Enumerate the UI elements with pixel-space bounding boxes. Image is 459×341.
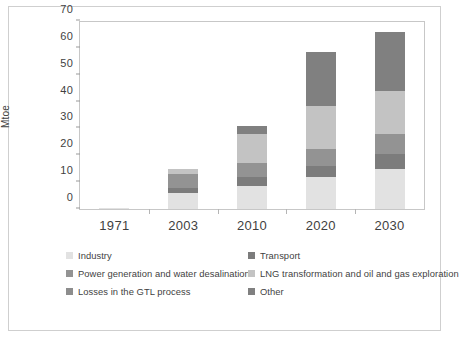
- bar-1971: [99, 208, 129, 209]
- bar-segment: [99, 208, 129, 209]
- bar-2003: [168, 169, 198, 209]
- y-axis-tick-label: 70: [34, 3, 80, 15]
- y-axis-tick-label: 30: [34, 110, 80, 122]
- legend-row: Losses in the GTL processOther: [66, 282, 438, 300]
- legend-item: Transport: [248, 246, 438, 264]
- legend-swatch-other: [248, 288, 255, 295]
- y-axis-tick-label: 10: [34, 164, 80, 176]
- bar-segment: [306, 166, 336, 177]
- x-axis-tick-mark: [149, 209, 150, 214]
- x-axis-tick-label: 2030: [355, 218, 425, 233]
- bar-2020: [306, 52, 336, 209]
- bar-segment: [237, 134, 267, 164]
- bar-segment: [168, 169, 198, 174]
- x-axis-tick-label: 2010: [217, 218, 287, 233]
- legend-swatch-power-generation: [66, 270, 73, 277]
- x-axis-tick-mark: [286, 209, 287, 214]
- y-axis-tick-mark: [76, 73, 80, 74]
- bar-segment: [168, 188, 198, 193]
- bar-segment: [168, 193, 198, 209]
- x-axis-tick-mark: [355, 209, 356, 214]
- y-axis-tick-label: 50: [34, 57, 80, 69]
- bar-segment: [375, 154, 405, 169]
- legend-label: Transport: [260, 250, 300, 261]
- legend-swatch-transport: [248, 252, 255, 259]
- legend-swatch-lng-transformation: [248, 270, 255, 277]
- bar-segment: [375, 91, 405, 134]
- legend-swatch-industry: [66, 252, 73, 259]
- legend-label: Other: [260, 286, 284, 297]
- bar-segment: [168, 174, 198, 188]
- y-axis-tick-mark: [76, 100, 80, 101]
- plot-area: 010203040506070 19712003201020202030: [79, 21, 425, 210]
- y-axis-tick-label: 40: [34, 84, 80, 96]
- legend-item: Power generation and water desalination: [66, 264, 248, 282]
- y-axis-tick-label: 20: [34, 137, 80, 149]
- bar-segment: [237, 126, 267, 134]
- y-axis-tick-label: 60: [34, 30, 80, 42]
- x-axis-tick-label: 2020: [286, 218, 356, 233]
- bar-segment: [375, 134, 405, 154]
- y-axis-tick-mark: [76, 181, 80, 182]
- bar-segment: [237, 177, 267, 186]
- bar-segment: [375, 169, 405, 209]
- x-axis-tick-label: 1971: [79, 218, 149, 233]
- legend-label: Power generation and water desalination: [78, 268, 250, 279]
- y-axis-tick-mark: [76, 208, 80, 209]
- y-axis-tick-mark: [76, 46, 80, 47]
- legend-item: Losses in the GTL process: [66, 282, 248, 300]
- x-axis-tick-mark: [218, 209, 219, 214]
- bar-segment: [306, 177, 336, 209]
- y-axis-tick-label: 0: [34, 191, 80, 203]
- legend-swatch-gtl-losses: [66, 288, 73, 295]
- legend-item: Industry: [66, 246, 248, 264]
- x-axis-tick-label: 2003: [148, 218, 218, 233]
- bar-segment: [375, 32, 405, 91]
- y-axis-tick-mark: [76, 20, 80, 21]
- legend-item: LNG transformation and oil and gas explo…: [248, 264, 459, 282]
- legend-item: Other: [248, 282, 438, 300]
- bar-segment: [306, 149, 336, 166]
- legend-label: LNG transformation and oil and gas explo…: [260, 268, 459, 279]
- bar-2010: [237, 126, 267, 209]
- legend-label: Industry: [78, 250, 112, 261]
- legend-row: IndustryTransport: [66, 246, 438, 264]
- bar-segment: [306, 52, 336, 106]
- y-axis-tick-mark: [76, 127, 80, 128]
- bar-segment: [237, 186, 267, 209]
- legend-row: Power generation and water desalinationL…: [66, 264, 438, 282]
- legend-label: Losses in the GTL process: [78, 286, 190, 297]
- bar-segment: [237, 163, 267, 176]
- y-axis-tick-mark: [76, 154, 80, 155]
- bar-segment: [306, 106, 336, 149]
- chart-legend: IndustryTransportPower generation and wa…: [66, 246, 438, 300]
- bar-2030: [375, 32, 405, 209]
